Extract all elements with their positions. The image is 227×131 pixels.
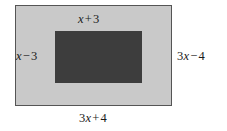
label-top-variable: x — [78, 12, 84, 26]
label-bottom-side: 3x+4 — [79, 112, 107, 125]
label-top-operator: + — [84, 12, 93, 26]
label-left-constant: 3 — [31, 49, 37, 63]
geometry-figure: x+3 x−3 3x−4 3x+4 — [0, 0, 227, 131]
label-right-constant: 4 — [198, 49, 204, 63]
inner-shaded-rectangle — [55, 31, 142, 83]
label-left-variable: x — [16, 49, 22, 63]
label-left-side: x−3 — [16, 50, 37, 63]
label-top-side: x+3 — [78, 13, 99, 26]
label-left-operator: − — [22, 49, 31, 63]
label-top-constant: 3 — [93, 12, 99, 26]
label-right-side: 3x−4 — [177, 50, 205, 63]
label-bottom-constant: 4 — [100, 111, 106, 125]
